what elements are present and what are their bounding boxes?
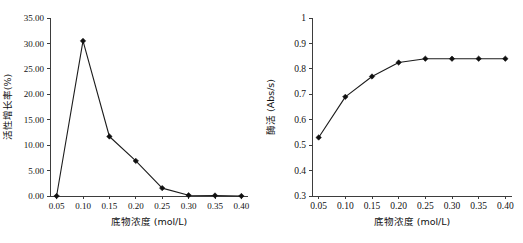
figure-container: 0.005.0010.0015.0020.0025.0030.0035.000.…: [0, 0, 523, 243]
x-tick-label: 0.10: [75, 201, 91, 211]
data-point-marker: [80, 38, 85, 43]
data-point-marker: [423, 56, 428, 61]
series-line: [57, 41, 242, 196]
x-tick-label: 0.30: [181, 201, 197, 211]
data-point-marker: [396, 60, 401, 65]
y-tick-label: 0.9: [294, 39, 306, 49]
y-tick-label: 10.00: [24, 140, 45, 150]
y-tick-label: 30.00: [24, 39, 45, 49]
x-tick-label: 0.15: [102, 201, 118, 211]
x-tick-label: 0.05: [310, 201, 327, 211]
axis-spines: [50, 18, 248, 196]
x-tick-label: 0.25: [154, 201, 170, 211]
y-tick-label: 0.5: [294, 140, 306, 150]
x-tick-label: 0.25: [417, 201, 434, 211]
y-tick-label: 0.8: [294, 64, 306, 74]
y-tick-label: 20.00: [24, 89, 45, 99]
axis-spines: [312, 18, 512, 196]
y-tick-label: 0.00: [28, 191, 44, 201]
x-tick-label: 0.35: [207, 201, 223, 211]
line-chart-activity-growth: 0.005.0010.0015.0020.0025.0030.0035.000.…: [0, 0, 262, 243]
x-tick-label: 0.35: [470, 201, 487, 211]
data-point-marker: [503, 56, 508, 61]
y-tick-label: 0.7: [294, 89, 306, 99]
y-tick-label: 0.3: [294, 191, 306, 201]
data-point-marker: [54, 193, 59, 198]
line-chart-enzyme-activity: 0.30.40.50.60.70.80.910.050.100.150.200.…: [262, 0, 523, 243]
x-axis-title: 底物浓度 (mol/L): [111, 216, 188, 227]
x-tick-label: 0.30: [444, 201, 461, 211]
chart-panel-left: 0.005.0010.0015.0020.0025.0030.0035.000.…: [0, 0, 262, 243]
chart-panel-right: 0.30.40.50.60.70.80.910.050.100.150.200.…: [262, 0, 523, 243]
x-axis-title: 底物浓度 (mol/L): [374, 216, 451, 227]
x-tick-label: 0.40: [234, 201, 250, 211]
y-tick-label: 5.00: [28, 166, 44, 176]
y-tick-label: 15.00: [24, 115, 45, 125]
x-tick-label: 0.10: [337, 201, 354, 211]
data-point-marker: [186, 193, 191, 198]
x-tick-label: 0.15: [364, 201, 381, 211]
x-tick-label: 0.05: [49, 201, 65, 211]
y-axis-title: 活性增长率(%): [2, 74, 13, 140]
data-point-marker: [449, 56, 454, 61]
y-tick-label: 0.6: [294, 115, 306, 125]
data-point-marker: [239, 193, 244, 198]
data-point-marker: [476, 56, 481, 61]
y-axis-title: 酶活 (Abs/s): [265, 79, 276, 135]
y-tick-label: 35.00: [24, 13, 45, 23]
x-tick-label: 0.20: [390, 201, 407, 211]
x-tick-label: 0.20: [128, 201, 144, 211]
x-tick-label: 0.40: [497, 201, 514, 211]
y-tick-label: 1: [301, 13, 306, 23]
data-point-marker: [212, 193, 217, 198]
y-tick-label: 0.4: [294, 166, 306, 176]
y-tick-label: 25.00: [24, 64, 45, 74]
